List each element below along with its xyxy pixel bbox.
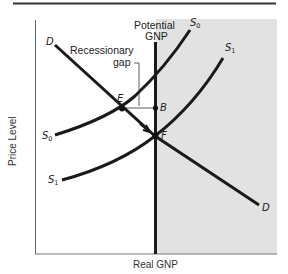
supply-s0-label-top: S0	[190, 18, 201, 30]
point-b	[153, 105, 158, 110]
point-b-label: B	[160, 103, 167, 113]
x-axis-label: Real GNP	[133, 260, 178, 270]
y-axis-label: Price Level	[8, 117, 18, 166]
recessionary-gap-label-2: gap	[113, 57, 131, 68]
point-e-label: E	[117, 94, 123, 104]
supply-s1-label-bottom: S1	[48, 175, 59, 187]
demand-label-bottom: D	[262, 203, 270, 213]
point-f	[153, 133, 159, 139]
potential-gnp-label-2: GNP	[145, 31, 168, 42]
potential-gnp-label: Potential	[134, 20, 175, 31]
supply-s1-label-top: S1	[225, 43, 236, 55]
gap-bracket	[134, 63, 139, 106]
recessionary-gap-label: Recessionary	[70, 45, 134, 56]
supply-s0-label-bottom: S0	[42, 131, 53, 143]
demand-label-top: D	[46, 37, 54, 47]
point-e	[119, 106, 125, 112]
point-f-label: F	[161, 131, 167, 141]
